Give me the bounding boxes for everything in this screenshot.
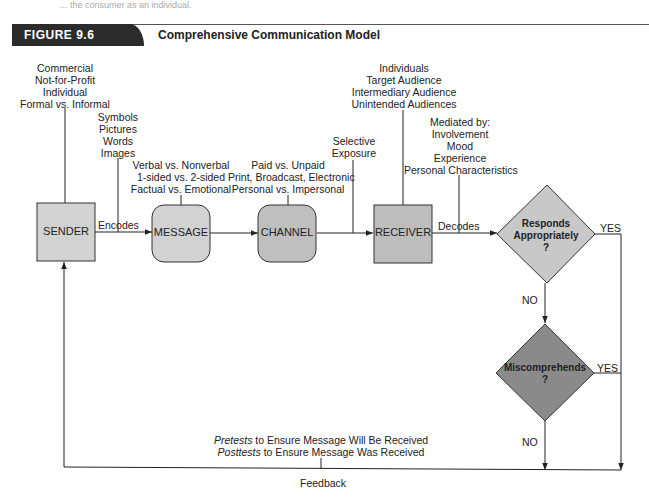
annotation-line: Print, Broadcast, Electronic xyxy=(228,171,348,183)
annotation-line: Personal Characteristics xyxy=(404,164,516,176)
receiver-label: RECEIVER xyxy=(374,226,432,238)
annotation-line: Intermediary Audience xyxy=(350,86,458,98)
decodes-label: Decodes xyxy=(438,220,479,232)
annotation-line: Individual xyxy=(15,86,115,98)
posttests-note: Posttests to Ensure Message Was Received xyxy=(210,446,432,458)
mediators-annotation: Mediated by: Involvement Mood Experience… xyxy=(404,116,516,176)
no1-label: NO xyxy=(522,294,538,306)
decision-line: Responds xyxy=(497,218,595,230)
selective-exposure-annotation: Selective Exposure xyxy=(326,135,382,159)
annotation-line: Verbal vs. Nonverbal xyxy=(128,159,234,171)
annotation-line: Personal vs. Impersonal xyxy=(228,183,348,195)
channel-label: CHANNEL xyxy=(258,226,316,238)
annotation-line: Target Audience xyxy=(350,74,458,86)
annotation-line: Selective xyxy=(326,135,382,147)
annotation-line: Symbols xyxy=(88,111,148,123)
feedback-bottom-line xyxy=(64,467,621,470)
annotation-line: Formal vs. Informal xyxy=(15,98,115,110)
encodes-label: Encodes xyxy=(98,219,139,231)
annotation-line: Mediated by: xyxy=(404,116,516,128)
decision-line: ? xyxy=(497,242,595,254)
miscomprehends-decision-label: Miscomprehends ? xyxy=(496,362,594,386)
sender-label: SENDER xyxy=(37,225,95,237)
annotation-line: Involvement xyxy=(404,128,516,140)
encoding-forms-annotation: Symbols Pictures Words Images xyxy=(88,111,148,159)
pretests-emphasis: Pretests xyxy=(214,434,253,446)
annotation-line: Words xyxy=(88,135,148,147)
decision-line: ? xyxy=(496,374,594,386)
annotation-line: Mood xyxy=(404,140,516,152)
annotation-line: Pictures xyxy=(88,123,148,135)
no2-label: NO xyxy=(522,436,538,448)
pretests-note: Pretests to Ensure Message Will Be Recei… xyxy=(210,434,432,446)
receiver-types-annotation: Individuals Target Audience Intermediary… xyxy=(350,62,458,110)
message-label: MESSAGE xyxy=(152,226,210,238)
message-types-annotation: Verbal vs. Nonverbal 1-sided vs. 2-sided… xyxy=(128,159,234,195)
decision-line: Appropriately xyxy=(497,230,595,242)
annotation-line: Not-for-Profit xyxy=(15,74,115,86)
annotation-line: Paid vs. Unpaid xyxy=(228,159,348,171)
annotation-line: Unintended Audiences xyxy=(350,98,458,110)
annotation-line: Individuals xyxy=(350,62,458,74)
feedback-notes: Pretests to Ensure Message Will Be Recei… xyxy=(210,434,432,458)
feedback-label: Feedback xyxy=(300,477,344,489)
channel-types-annotation: Paid vs. Unpaid Print, Broadcast, Electr… xyxy=(228,159,348,195)
decision-line: Miscomprehends xyxy=(496,362,594,374)
annotation-line: Images xyxy=(88,147,148,159)
annotation-line: Experience xyxy=(404,152,516,164)
annotation-line: Commercial xyxy=(15,62,115,74)
posttests-text: to Ensure Message Was Received xyxy=(261,446,425,458)
yes2-label: YES xyxy=(597,362,618,374)
yes1-label: YES xyxy=(600,222,621,234)
sender-types-annotation: Commercial Not-for-Profit Individual For… xyxy=(15,62,115,110)
annotation-line: Exposure xyxy=(326,147,382,159)
pretests-text: to Ensure Message Will Be Received xyxy=(252,434,428,446)
posttests-emphasis: Posttests xyxy=(218,446,261,458)
annotation-line: Factual vs. Emotional xyxy=(128,183,234,195)
annotation-line: 1-sided vs. 2-sided xyxy=(128,171,234,183)
responds-decision-label: Responds Appropriately ? xyxy=(497,218,595,254)
